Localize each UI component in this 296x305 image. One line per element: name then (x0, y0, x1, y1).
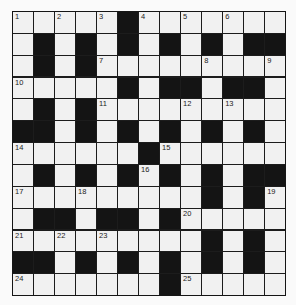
answer-cell[interactable] (265, 274, 285, 295)
answer-cell[interactable] (223, 34, 243, 55)
answer-cell[interactable] (55, 143, 75, 164)
answer-cell[interactable] (55, 78, 75, 99)
answer-cell[interactable] (139, 209, 159, 230)
answer-cell[interactable]: 1 (13, 12, 33, 33)
answer-cell[interactable] (244, 56, 264, 77)
answer-cell[interactable] (223, 143, 243, 164)
answer-cell[interactable] (55, 274, 75, 295)
answer-cell[interactable] (118, 274, 138, 295)
answer-cell[interactable] (181, 231, 201, 252)
answer-cell[interactable] (202, 12, 222, 33)
answer-cell[interactable]: 12 (181, 99, 201, 120)
answer-cell[interactable] (181, 34, 201, 55)
answer-cell[interactable] (139, 252, 159, 273)
answer-cell[interactable]: 6 (223, 12, 243, 33)
answer-cell[interactable] (244, 12, 264, 33)
answer-cell[interactable] (76, 143, 96, 164)
answer-cell[interactable] (55, 121, 75, 142)
answer-cell[interactable] (55, 99, 75, 120)
answer-cell[interactable] (223, 187, 243, 208)
answer-cell[interactable] (265, 252, 285, 273)
answer-cell[interactable] (118, 231, 138, 252)
answer-cell[interactable] (139, 56, 159, 77)
answer-cell[interactable] (181, 121, 201, 142)
answer-cell[interactable] (139, 34, 159, 55)
answer-cell[interactable]: 3 (97, 12, 117, 33)
answer-cell[interactable] (97, 274, 117, 295)
answer-cell[interactable] (13, 209, 33, 230)
answer-cell[interactable] (139, 187, 159, 208)
answer-cell[interactable] (202, 78, 222, 99)
answer-cell[interactable] (244, 143, 264, 164)
answer-cell[interactable] (139, 99, 159, 120)
answer-cell[interactable] (55, 187, 75, 208)
answer-cell[interactable] (160, 99, 180, 120)
answer-cell[interactable]: 15 (160, 143, 180, 164)
answer-cell[interactable] (139, 231, 159, 252)
answer-cell[interactable] (265, 121, 285, 142)
answer-cell[interactable] (202, 99, 222, 120)
answer-cell[interactable] (139, 274, 159, 295)
answer-cell[interactable]: 18 (76, 187, 96, 208)
answer-cell[interactable] (76, 231, 96, 252)
answer-cell[interactable] (118, 143, 138, 164)
answer-cell[interactable]: 8 (202, 56, 222, 77)
answer-cell[interactable]: 22 (55, 231, 75, 252)
answer-cell[interactable]: 14 (13, 143, 33, 164)
answer-cell[interactable] (265, 143, 285, 164)
answer-cell[interactable] (76, 12, 96, 33)
answer-cell[interactable] (76, 78, 96, 99)
answer-cell[interactable] (76, 274, 96, 295)
answer-cell[interactable] (265, 12, 285, 33)
answer-cell[interactable] (223, 121, 243, 142)
answer-cell[interactable] (97, 165, 117, 186)
answer-cell[interactable] (13, 34, 33, 55)
answer-cell[interactable] (118, 99, 138, 120)
answer-cell[interactable] (223, 252, 243, 273)
answer-cell[interactable]: 9 (265, 56, 285, 77)
answer-cell[interactable] (160, 12, 180, 33)
answer-cell[interactable] (181, 56, 201, 77)
answer-cell[interactable] (13, 56, 33, 77)
answer-cell[interactable]: 25 (181, 274, 201, 295)
answer-cell[interactable] (55, 34, 75, 55)
answer-cell[interactable] (181, 252, 201, 273)
answer-cell[interactable] (223, 165, 243, 186)
answer-cell[interactable] (97, 78, 117, 99)
answer-cell[interactable]: 19 (265, 187, 285, 208)
answer-cell[interactable] (223, 209, 243, 230)
answer-cell[interactable] (13, 165, 33, 186)
answer-cell[interactable] (34, 78, 54, 99)
answer-cell[interactable] (244, 209, 264, 230)
answer-cell[interactable]: 17 (13, 187, 33, 208)
answer-cell[interactable] (55, 165, 75, 186)
answer-cell[interactable] (202, 143, 222, 164)
answer-cell[interactable]: 21 (13, 231, 33, 252)
answer-cell[interactable] (244, 99, 264, 120)
answer-cell[interactable] (223, 56, 243, 77)
answer-cell[interactable] (160, 56, 180, 77)
answer-cell[interactable] (34, 274, 54, 295)
answer-cell[interactable] (97, 34, 117, 55)
answer-cell[interactable] (181, 187, 201, 208)
answer-cell[interactable]: 11 (97, 99, 117, 120)
answer-cell[interactable] (265, 78, 285, 99)
answer-cell[interactable] (139, 121, 159, 142)
answer-cell[interactable] (55, 252, 75, 273)
answer-cell[interactable]: 10 (13, 78, 33, 99)
answer-cell[interactable] (97, 187, 117, 208)
answer-cell[interactable]: 16 (139, 165, 159, 186)
answer-cell[interactable] (265, 231, 285, 252)
answer-cell[interactable]: 13 (223, 99, 243, 120)
answer-cell[interactable] (265, 99, 285, 120)
answer-cell[interactable]: 5 (181, 12, 201, 33)
answer-cell[interactable] (97, 121, 117, 142)
answer-cell[interactable] (160, 187, 180, 208)
answer-cell[interactable] (202, 209, 222, 230)
answer-cell[interactable] (55, 56, 75, 77)
answer-cell[interactable] (265, 209, 285, 230)
answer-cell[interactable] (139, 78, 159, 99)
answer-cell[interactable] (160, 231, 180, 252)
answer-cell[interactable] (118, 56, 138, 77)
answer-cell[interactable] (181, 143, 201, 164)
